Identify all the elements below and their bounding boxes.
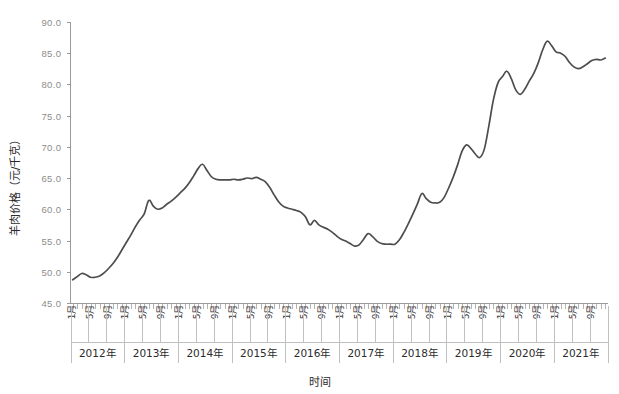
x-axis-month-label: 1月 [335,305,345,320]
x-axis-month-label: 1月 [174,305,184,320]
x-axis-month-label: 9月 [532,305,542,320]
x-axis-year-labels: 2012年2013年2014年2015年2016年2017年2018年2019年… [79,347,599,359]
x-axis-year-label: 2019年 [455,347,492,359]
y-axis-tick-label: 60.0 [41,204,61,215]
y-axis-tick-label: 50.0 [41,267,61,278]
x-axis-year-label: 2013年 [133,347,170,359]
y-axis-tick-label: 45.0 [41,298,61,309]
x-axis-title-text: 时间 [309,376,331,389]
y-axis-tick-label: 70.0 [41,142,61,153]
x-axis-month-label: 5月 [299,305,309,320]
x-axis-month-label: 9月 [478,305,488,320]
y-axis-title-text: 羊肉价格（元/千克） [8,134,22,237]
x-axis-year-label: 2020年 [509,347,546,359]
line-chart: 羊肉价格（元/千克） 45.050.055.060.065.070.075.08… [0,0,619,394]
x-axis-month-label: 9月 [264,305,274,320]
y-axis: 45.050.055.060.065.070.075.080.085.090.0 [41,17,70,309]
y-axis-tick-label: 75.0 [41,111,61,122]
x-axis-month-label: 9月 [156,305,166,320]
x-axis-month-label: 9月 [317,305,327,320]
x-axis-year-label: 2014年 [186,347,223,359]
x-axis-month-label: 9月 [103,305,113,320]
chart-container: 羊肉价格（元/千克） 45.050.055.060.065.070.075.08… [0,0,619,394]
x-axis-month-label: 1月 [443,305,453,320]
x-axis-year-label: 2015年 [240,347,277,359]
x-axis-year-label: 2017年 [347,347,384,359]
x-axis-month-label: 5月 [514,305,524,320]
x-axis-month-label: 5月 [353,305,363,320]
x-axis-month-label: 5月 [138,305,148,320]
x-axis-year-label: 2016年 [294,347,331,359]
x-axis-month-label: 5月 [85,305,95,320]
y-axis-tick-label: 85.0 [41,48,61,59]
y-axis-title: 羊肉价格（元/千克） [8,134,22,237]
x-axis-month-label: 5月 [461,305,471,320]
x-axis-month-label: 1月 [282,305,292,320]
y-axis-tick-label: 65.0 [41,173,61,184]
y-axis-tick-label: 55.0 [41,236,61,247]
x-axis-month-label: 1月 [496,305,506,320]
x-axis-month-labels: 1月5月9月1月5月9月1月5月9月1月5月9月1月5月9月1月5月9月1月5月… [67,305,596,320]
x-axis-year-label: 2021年 [562,347,599,359]
price-series-line [73,41,606,280]
x-axis-month-label: 1月 [120,305,130,320]
y-axis-tick-label: 80.0 [41,79,61,90]
y-axis-tick-label: 90.0 [41,17,61,28]
x-axis-year-label: 2018年 [401,347,438,359]
x-axis-year-label: 2012年 [79,347,116,359]
